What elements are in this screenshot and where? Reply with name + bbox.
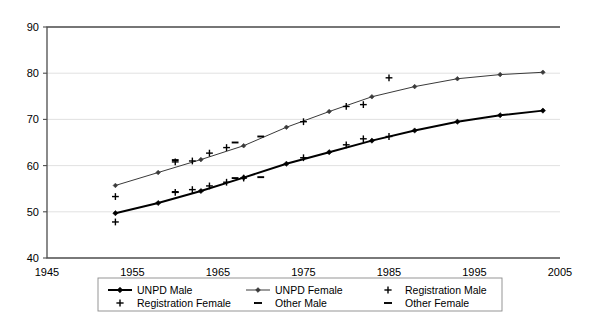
x-tick-label-1985: 1985	[377, 266, 401, 278]
y-tick-label-40: 40	[27, 252, 39, 264]
marker-diamond	[370, 94, 375, 99]
y-tick-label-90: 90	[27, 21, 39, 33]
y-tick-label-80: 80	[27, 67, 39, 79]
life-expectancy-chart: 4050607080901945195519651975198519952005…	[0, 0, 602, 335]
chart-canvas: 4050607080901945195519651975198519952005…	[0, 0, 602, 335]
marker-diamond	[541, 70, 546, 75]
marker-diamond	[284, 125, 289, 130]
marker-diamond	[540, 108, 545, 113]
marker-diamond	[369, 138, 374, 143]
marker-diamond	[412, 84, 417, 89]
legend-label: Other Male	[275, 297, 327, 309]
marker-diamond	[199, 157, 204, 162]
marker-diamond	[455, 76, 460, 81]
plot-frame	[47, 27, 560, 258]
x-tick-label-2005: 2005	[548, 266, 572, 278]
y-tick-label-70: 70	[27, 113, 39, 125]
series-unpd-female	[113, 70, 545, 188]
marker-diamond	[455, 119, 460, 124]
marker-diamond	[198, 188, 203, 193]
marker-diamond	[156, 200, 161, 205]
legend-label: Registration Female	[137, 297, 231, 309]
marker-diamond	[113, 211, 118, 216]
x-tick-label-1995: 1995	[462, 266, 486, 278]
marker-diamond	[327, 109, 332, 114]
marker-diamond	[327, 150, 332, 155]
series-line	[115, 111, 543, 214]
marker-diamond	[156, 170, 161, 175]
legend-label: Registration Male	[405, 284, 487, 296]
series-registration-female	[112, 74, 392, 200]
legend-label: UNPD Female	[275, 284, 343, 296]
marker-diamond	[412, 128, 417, 133]
x-tick-label-1945: 1945	[35, 266, 59, 278]
marker-diamond	[498, 113, 503, 118]
marker-diamond	[113, 183, 118, 188]
series-other-female	[172, 136, 264, 160]
legend-label: UNPD Male	[137, 284, 193, 296]
x-tick-label-1965: 1965	[206, 266, 230, 278]
series-other-male	[172, 177, 264, 192]
legend-label: Other Female	[405, 297, 469, 309]
marker-diamond	[241, 143, 246, 148]
x-tick-label-1955: 1955	[120, 266, 144, 278]
x-tick-label-1975: 1975	[291, 266, 315, 278]
y-tick-label-50: 50	[27, 206, 39, 218]
series-line	[115, 72, 543, 185]
y-tick-label-60: 60	[27, 160, 39, 172]
